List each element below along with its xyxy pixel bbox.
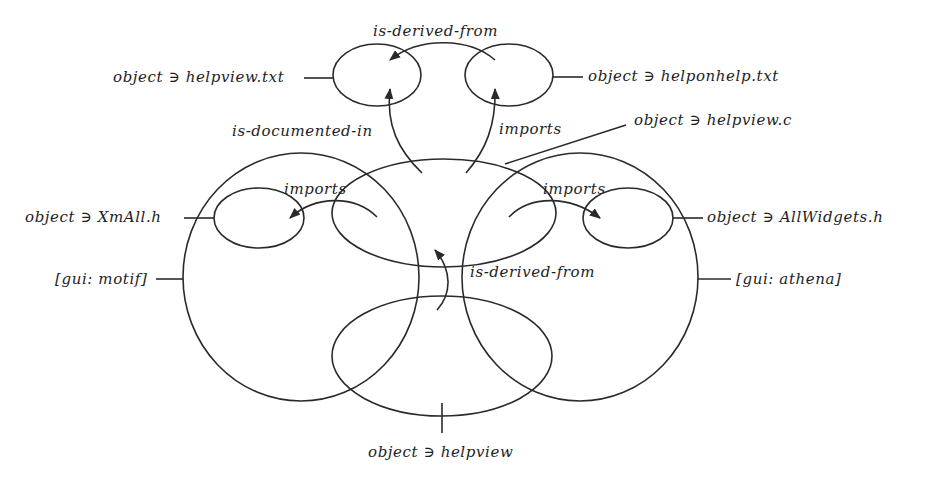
edge-label-imports-helponhelp: imports bbox=[499, 120, 562, 138]
node-label-gui-motif: [gui: motif] bbox=[55, 270, 147, 288]
node-label-gui-athena: [gui: athena] bbox=[736, 270, 842, 288]
edge-label-is-derived-from-center: is-derived-from bbox=[470, 263, 595, 281]
node-label-helpview-txt: object ∋ helpview.txt bbox=[113, 68, 285, 86]
node-label-xmall-h: object ∋ XmAll.h bbox=[25, 208, 162, 226]
helponhelp-txt-node bbox=[465, 44, 553, 106]
node-label-helpview-c: object ∋ helpview.c bbox=[634, 111, 792, 129]
object-relationship-diagram: is-derived-from is-documented-in imports… bbox=[0, 0, 928, 483]
node-label-helpview: object ∋ helpview bbox=[368, 443, 513, 461]
edge-label-imports-xmall: imports bbox=[284, 180, 347, 198]
helpview-node bbox=[332, 296, 552, 416]
edge-label-imports-allwidgets: imports bbox=[543, 180, 606, 198]
edge-label-is-documented-in: is-documented-in bbox=[232, 122, 373, 140]
node-label-allwidgets-h: object ∋ AllWidgets.h bbox=[707, 208, 883, 226]
helpview-c-node bbox=[332, 159, 556, 267]
helpview-txt-node bbox=[333, 44, 421, 106]
edge-label-is-derived-from-top: is-derived-from bbox=[373, 22, 498, 40]
arrow-is-derived-from-center bbox=[435, 250, 448, 310]
node-label-helponhelp-txt: object ∋ helponhelp.txt bbox=[588, 67, 779, 85]
